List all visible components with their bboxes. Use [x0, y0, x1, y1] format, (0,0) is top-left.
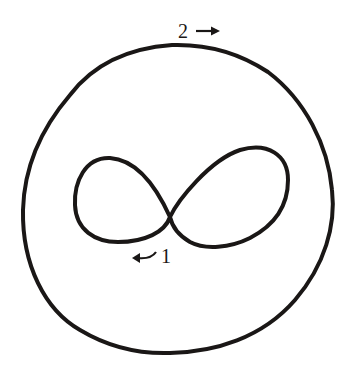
right-arrow-icon — [196, 27, 220, 36]
outer-curve-label: 2 — [178, 20, 188, 42]
diagram-canvas: 2 1 — [0, 0, 351, 378]
figure-eight-label: 1 — [161, 245, 171, 267]
curved-left-arrow-icon — [132, 252, 156, 263]
figure-eight-curve — [75, 148, 288, 247]
